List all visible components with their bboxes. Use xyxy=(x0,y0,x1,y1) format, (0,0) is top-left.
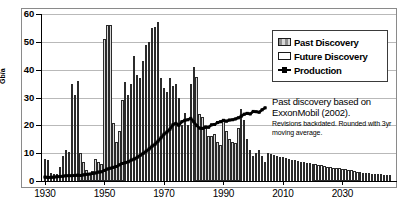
y-axis-tick-label: 60 xyxy=(24,9,34,18)
legend-label-future-discovery: Future Discovery xyxy=(294,51,368,62)
production-marker xyxy=(109,167,112,170)
production-marker xyxy=(64,174,67,177)
production-marker xyxy=(73,174,76,177)
x-axis-tick-label: 2010 xyxy=(263,188,303,199)
production-marker xyxy=(151,145,154,148)
production-marker xyxy=(52,176,55,179)
y-axis-title: Gb/a xyxy=(0,68,6,84)
production-marker xyxy=(91,172,94,175)
production-marker xyxy=(49,176,52,179)
x-axis-tick xyxy=(104,181,105,185)
production-marker xyxy=(183,119,186,122)
production-marker xyxy=(168,128,171,131)
production-marker xyxy=(165,131,168,134)
production-marker xyxy=(216,121,219,124)
x-axis-tick-label: 1950 xyxy=(84,188,124,199)
production-marker xyxy=(88,173,91,176)
y-axis-tick-label: 20 xyxy=(24,120,34,129)
production-marker xyxy=(124,161,127,164)
production-marker xyxy=(127,160,130,163)
production-marker xyxy=(85,173,88,176)
legend-item-future-discovery: Future Discovery xyxy=(278,49,383,63)
production-marker xyxy=(180,120,183,123)
production-marker xyxy=(61,175,64,178)
chart-legend: Past Discovery Future Discovery Producti… xyxy=(272,30,388,82)
production-marker xyxy=(118,163,121,166)
production-marker xyxy=(46,176,49,179)
production-marker xyxy=(252,110,255,113)
figure-root: Gb/a 0102030405060 193019501970199020102… xyxy=(0,0,413,217)
production-marker xyxy=(121,162,124,165)
production-marker xyxy=(222,119,225,122)
production-marker xyxy=(201,127,204,130)
x-axis-tick-label: 1970 xyxy=(144,188,184,199)
production-marker xyxy=(145,150,148,153)
production-marker xyxy=(142,152,145,155)
production-marker xyxy=(264,106,267,109)
production-marker xyxy=(58,175,61,178)
production-marker xyxy=(112,166,115,169)
production-marker xyxy=(237,116,240,119)
y-axis-tick-label: 0 xyxy=(29,176,34,185)
production-marker xyxy=(94,171,97,174)
production-marker xyxy=(195,124,198,127)
legend-label-production: Production xyxy=(294,65,342,76)
production-marker xyxy=(157,140,160,143)
chart-annotation: Past discovery based on ExxonMobil (2002… xyxy=(272,96,397,137)
x-axis-tick xyxy=(223,181,224,185)
legend-item-past-discovery: Past Discovery xyxy=(278,35,383,49)
production-marker xyxy=(159,136,162,139)
production-marker xyxy=(115,165,118,168)
production-marker xyxy=(171,123,174,126)
production-marker xyxy=(177,124,180,127)
production-marker xyxy=(204,126,207,129)
production-marker xyxy=(246,112,249,115)
x-axis-tick-label: 1990 xyxy=(203,188,243,199)
x-axis-tick-label: 2030 xyxy=(322,188,362,199)
future-discovery-swatch-icon xyxy=(278,52,291,60)
y-axis-tick-label: 40 xyxy=(24,65,34,74)
legend-item-production: Production xyxy=(278,63,383,77)
x-axis-tick-label: 1930 xyxy=(25,188,65,199)
production-marker xyxy=(162,133,165,136)
production-marker xyxy=(103,169,106,172)
production-marker xyxy=(174,122,177,125)
production-marker xyxy=(55,175,58,178)
production-marker xyxy=(198,127,201,130)
production-marker xyxy=(249,112,252,115)
past-discovery-swatch-icon xyxy=(278,38,291,46)
production-marker xyxy=(228,119,231,122)
x-axis-tick xyxy=(45,181,46,185)
production-marker xyxy=(225,120,228,123)
production-marker xyxy=(240,115,243,118)
production-marker xyxy=(258,111,261,114)
production-marker xyxy=(106,168,109,171)
production-marker xyxy=(76,174,79,177)
production-marker xyxy=(100,170,103,173)
production-marker xyxy=(210,123,213,126)
production-marker xyxy=(43,176,46,179)
production-marker xyxy=(234,117,237,120)
y-axis-tick-label: 30 xyxy=(24,93,34,102)
production-marker xyxy=(154,143,157,146)
production-marker xyxy=(243,113,246,116)
production-marker xyxy=(261,108,264,111)
annotation-sub-text: Revisions backdated. Rounded with 3yr mo… xyxy=(272,120,397,137)
production-marker xyxy=(192,120,195,123)
annotation-main-text: Past discovery based on ExxonMobil (2002… xyxy=(272,96,397,118)
production-marker xyxy=(133,158,136,161)
production-marker xyxy=(130,159,133,162)
production-marker xyxy=(189,117,192,120)
production-marker xyxy=(136,156,139,159)
production-marker xyxy=(67,174,70,177)
production-marker xyxy=(70,174,73,177)
production-marker xyxy=(82,173,85,176)
y-axis-tick-label: 50 xyxy=(24,37,34,46)
legend-label-past-discovery: Past Discovery xyxy=(294,37,359,48)
production-marker xyxy=(139,154,142,157)
production-marker xyxy=(97,171,100,174)
production-polyline xyxy=(45,108,265,178)
production-marker xyxy=(186,118,189,121)
x-axis-tick xyxy=(283,181,284,185)
production-marker xyxy=(213,123,216,126)
